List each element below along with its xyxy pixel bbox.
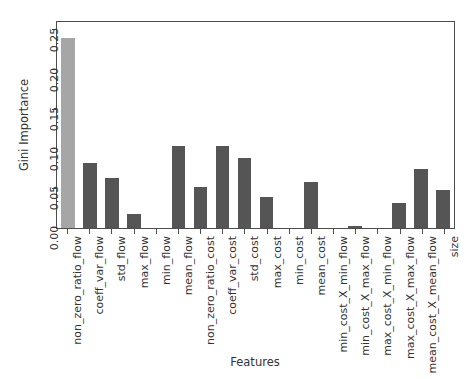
x-tick-mark bbox=[178, 229, 179, 234]
bar-slot bbox=[57, 22, 79, 228]
x-tick-mark bbox=[377, 229, 378, 234]
x-tick-slot bbox=[189, 229, 211, 235]
x-tick-label-slot: non_zero_ratio_cost bbox=[189, 236, 211, 351]
x-tick-mark bbox=[134, 229, 135, 234]
x-tick-mark bbox=[311, 229, 312, 234]
x-tick-label-slot: coeff_var_flow bbox=[78, 236, 100, 351]
x-tick-label-slot: mean_flow bbox=[167, 236, 189, 351]
bar bbox=[83, 163, 97, 228]
x-tick-mark bbox=[200, 229, 201, 234]
x-tick-slot bbox=[56, 229, 78, 235]
x-axis-ticks bbox=[56, 229, 455, 235]
x-tick-label-slot: coeff_var_cost bbox=[211, 236, 233, 351]
x-tick-mark bbox=[67, 229, 68, 234]
gini-importance-bar-chart: Gini Importance 0.000.050.100.150.200.25… bbox=[0, 0, 471, 379]
x-tick-label-slot: min_flow bbox=[145, 236, 167, 351]
x-tick-mark bbox=[244, 229, 245, 234]
bar bbox=[304, 182, 318, 228]
x-tick-slot bbox=[344, 229, 366, 235]
bar bbox=[61, 38, 75, 228]
x-tick-mark bbox=[400, 229, 401, 234]
x-axis-title: Features bbox=[55, 355, 455, 369]
x-tick-label-slot: non_zero_ratio_flow bbox=[56, 236, 78, 351]
x-tick-label-slot: max_cost bbox=[256, 236, 278, 351]
x-tick-mark bbox=[111, 229, 112, 234]
x-tick-slot bbox=[300, 229, 322, 235]
bar-slot bbox=[101, 22, 123, 228]
bar bbox=[238, 158, 252, 229]
x-tick-label-slot: size bbox=[433, 236, 455, 351]
plot-area: 0.000.050.100.150.200.25 bbox=[56, 21, 455, 229]
x-tick-slot bbox=[100, 229, 122, 235]
x-axis-tick-labels: non_zero_ratio_flowcoeff_var_flowstd_flo… bbox=[56, 236, 455, 351]
x-tick-slot bbox=[366, 229, 388, 235]
bar-slot bbox=[388, 22, 410, 228]
bar bbox=[127, 214, 141, 228]
x-tick-slot bbox=[145, 229, 167, 235]
x-tick-mark bbox=[156, 229, 157, 234]
x-tick-mark bbox=[422, 229, 423, 234]
x-tick-label-slot: max_flow bbox=[123, 236, 145, 351]
x-tick-slot bbox=[389, 229, 411, 235]
bar-slot bbox=[300, 22, 322, 228]
bar-slot bbox=[410, 22, 432, 228]
x-tick-slot bbox=[278, 229, 300, 235]
x-tick-mark bbox=[267, 229, 268, 234]
bar-slot bbox=[145, 22, 167, 228]
bar-slot bbox=[322, 22, 344, 228]
bar bbox=[436, 190, 450, 228]
x-tick-label-slot: max_cost_X_min_flow bbox=[366, 236, 388, 351]
bar bbox=[172, 146, 186, 228]
bar-slot bbox=[344, 22, 366, 228]
bar bbox=[216, 146, 230, 228]
bar-slot bbox=[366, 22, 388, 228]
bar-series bbox=[57, 22, 454, 228]
y-axis-title: Gini Importance bbox=[17, 45, 31, 205]
bar-slot bbox=[256, 22, 278, 228]
x-tick-slot bbox=[233, 229, 255, 235]
bar-slot bbox=[234, 22, 256, 228]
bar bbox=[260, 197, 274, 228]
x-tick-label-slot: max_cost_X_max_flow bbox=[389, 236, 411, 351]
x-tick-slot bbox=[322, 229, 344, 235]
bar-slot bbox=[432, 22, 454, 228]
x-tick-label-slot: min_cost_X_max_flow bbox=[344, 236, 366, 351]
x-tick-slot bbox=[256, 229, 278, 235]
bar-slot bbox=[167, 22, 189, 228]
bar bbox=[414, 169, 428, 228]
x-tick-label-slot: min_cost bbox=[278, 236, 300, 351]
x-tick-mark bbox=[333, 229, 334, 234]
x-tick-label: size bbox=[448, 236, 461, 257]
bar-slot bbox=[278, 22, 300, 228]
x-tick-slot bbox=[433, 229, 455, 235]
x-tick-mark bbox=[355, 229, 356, 234]
x-tick-slot bbox=[211, 229, 233, 235]
bar bbox=[194, 187, 208, 228]
x-tick-label-slot: min_cost_X_min_flow bbox=[322, 236, 344, 351]
x-tick-label-slot: std_flow bbox=[100, 236, 122, 351]
x-tick-slot bbox=[123, 229, 145, 235]
bar-slot bbox=[123, 22, 145, 228]
x-tick-mark bbox=[222, 229, 223, 234]
bar-slot bbox=[211, 22, 233, 228]
bar bbox=[392, 203, 406, 228]
x-tick-label-slot: std_cost bbox=[233, 236, 255, 351]
x-tick-slot bbox=[78, 229, 100, 235]
x-tick-slot bbox=[411, 229, 433, 235]
x-tick-mark bbox=[289, 229, 290, 234]
x-tick-label-slot: mean_cost bbox=[300, 236, 322, 351]
bar-slot bbox=[189, 22, 211, 228]
bar bbox=[105, 178, 119, 228]
bar-slot bbox=[79, 22, 101, 228]
x-tick-label-slot: mean_cost_X_mean_flow bbox=[411, 236, 433, 351]
x-tick-mark bbox=[444, 229, 445, 234]
bar bbox=[348, 226, 362, 228]
x-tick-slot bbox=[167, 229, 189, 235]
x-tick-mark bbox=[89, 229, 90, 234]
